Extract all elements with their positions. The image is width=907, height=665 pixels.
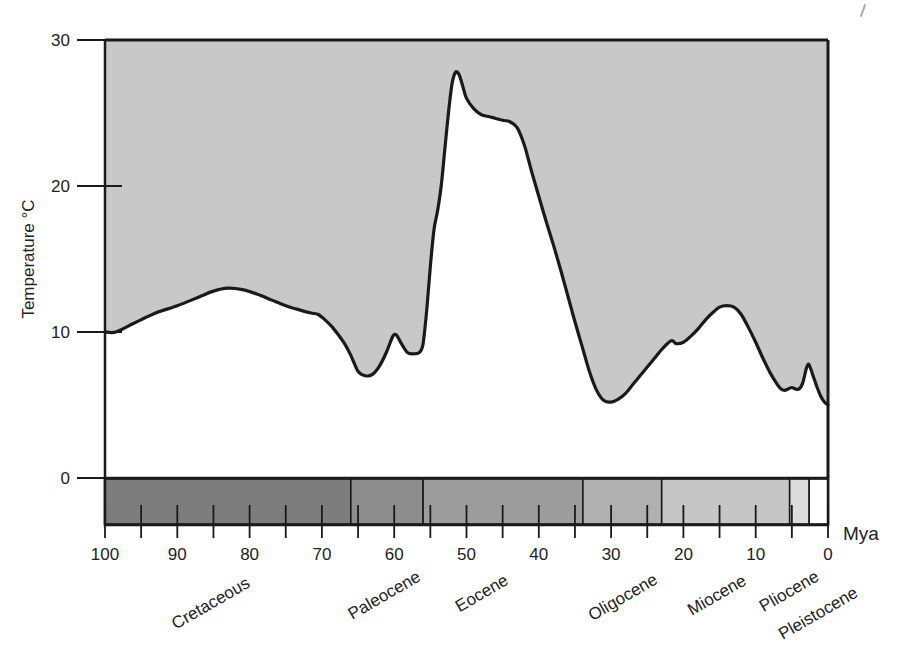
- x-axis-unit-label: Mya: [843, 523, 879, 544]
- chart-figure: 3020100 Temperature °C 10090807060504030…: [0, 0, 907, 665]
- y-tick-label: 10: [51, 323, 70, 342]
- x-tick-label: 40: [529, 545, 548, 564]
- epoch-name-label: Paleocene: [345, 567, 424, 624]
- x-tick-label: 60: [385, 545, 404, 564]
- y-tick-label: 20: [51, 177, 70, 196]
- epoch-name-label: Miocene: [684, 571, 749, 620]
- x-tick-label: 100: [91, 545, 119, 564]
- y-tick-label: 0: [61, 469, 70, 488]
- epoch-band: [662, 479, 790, 524]
- x-tick-label: 20: [674, 545, 693, 564]
- y-axis-title: Temperature °C: [19, 199, 38, 318]
- x-tick-label: 30: [602, 545, 621, 564]
- epoch-name-label: Oligocene: [585, 570, 661, 625]
- epoch-name-label: Cretaceous: [168, 573, 253, 633]
- x-tick-label: 70: [312, 545, 331, 564]
- x-tick-label: 50: [457, 545, 476, 564]
- x-tick-label: 10: [746, 545, 765, 564]
- paleotemperature-chart: 3020100 Temperature °C 10090807060504030…: [0, 0, 907, 665]
- x-tick-label: 0: [823, 545, 832, 564]
- epoch-band: [583, 479, 662, 524]
- x-tick-label: 80: [240, 545, 259, 564]
- epoch-name-label: Eocene: [452, 571, 511, 616]
- epoch-band: [351, 479, 423, 524]
- epoch-band: [809, 479, 828, 524]
- epoch-name-labels: CretaceousPaleoceneEoceneOligoceneMiocen…: [168, 567, 861, 644]
- x-tick-label: 90: [168, 545, 187, 564]
- y-tick-label: 30: [51, 31, 70, 50]
